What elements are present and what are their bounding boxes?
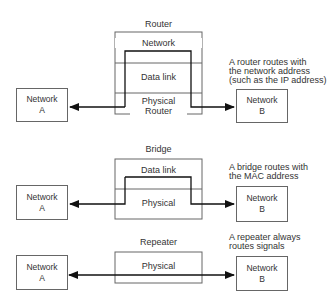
- network-id: B: [259, 274, 265, 285]
- bridge-layer-physical: Physical: [130, 198, 187, 208]
- repeater-title: Repeater: [115, 237, 202, 247]
- network-label: Network: [246, 263, 277, 274]
- router-network-b: Network B: [236, 89, 288, 123]
- repeater-note-line-2: routes signals: [229, 242, 285, 251]
- network-label: Network: [26, 192, 57, 203]
- router-layer-network: Network: [115, 38, 202, 48]
- repeater-layer-physical: Physical: [115, 261, 202, 271]
- router-layer-router: Router: [130, 106, 187, 116]
- network-label: Network: [246, 95, 277, 106]
- network-id: B: [259, 204, 265, 215]
- repeater-network-a: Network A: [16, 255, 68, 290]
- router-title: Router: [115, 19, 202, 29]
- network-id: A: [39, 105, 45, 116]
- bridge-network-a: Network A: [16, 185, 68, 220]
- bridge-layer-datalink: Data link: [115, 165, 202, 175]
- network-id: B: [259, 106, 265, 117]
- bridge-title: Bridge: [115, 144, 202, 154]
- bridge-network-b: Network B: [236, 186, 288, 222]
- bridge-note-line-2: the MAC address: [229, 172, 299, 181]
- network-label: Network: [246, 193, 277, 204]
- router-layer-physical: Physical: [130, 96, 187, 106]
- repeater-network-b: Network B: [236, 256, 288, 291]
- network-label: Network: [26, 262, 57, 273]
- bridge-path-left: [70, 177, 125, 204]
- network-id: A: [39, 273, 45, 284]
- network-label: Network: [26, 94, 57, 105]
- network-id: A: [39, 203, 45, 214]
- router-network-a: Network A: [16, 88, 68, 122]
- router-note-line-3: (such as the IP address): [229, 76, 326, 85]
- router-layer-datalink: Data link: [130, 72, 187, 82]
